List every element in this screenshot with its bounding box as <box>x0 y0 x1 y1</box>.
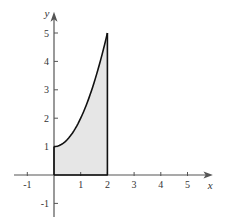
shaded-region <box>54 33 107 175</box>
y-tick-label: -1 <box>41 198 49 209</box>
y-tick-label: 2 <box>44 113 49 124</box>
plot-area: -112345-112345xy <box>14 7 213 217</box>
y-tick-label: 5 <box>44 28 49 39</box>
y-tick-label: 3 <box>44 84 49 95</box>
y-axis-label: y <box>44 7 50 19</box>
y-tick-label: 4 <box>44 56 49 67</box>
y-tick-label: 1 <box>44 141 49 152</box>
x-tick-label: 1 <box>78 179 83 190</box>
x-tick-label: 4 <box>158 179 163 190</box>
x-tick-label: -1 <box>23 179 31 190</box>
x-tick-label: 2 <box>105 179 110 190</box>
x-tick-label: 5 <box>185 179 190 190</box>
x-tick-label: 3 <box>132 179 137 190</box>
x-axis-label: x <box>207 179 213 191</box>
chart-canvas: -112345-112345xy <box>0 0 226 217</box>
